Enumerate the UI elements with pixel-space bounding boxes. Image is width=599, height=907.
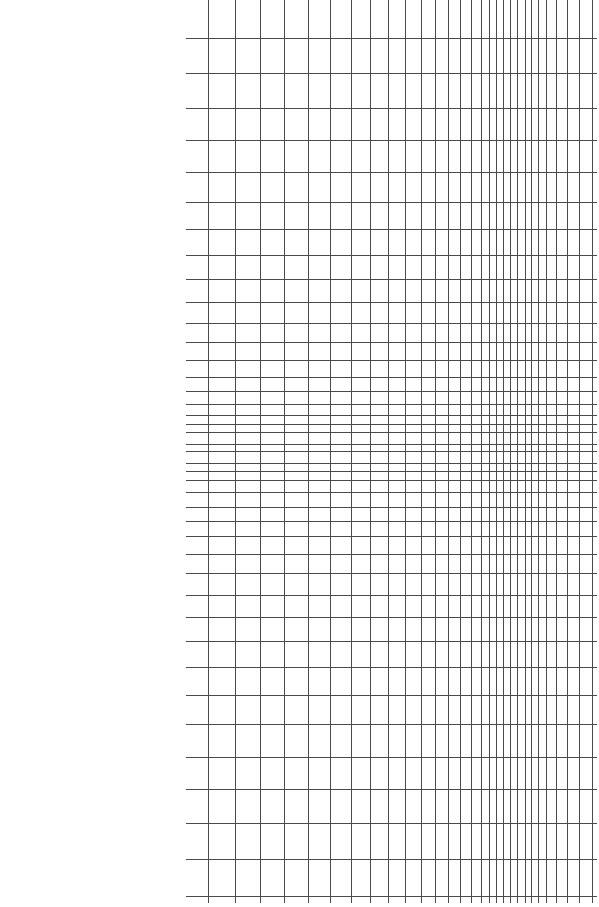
horizontal-grid-lines <box>186 39 597 897</box>
grid-paper <box>0 0 599 907</box>
